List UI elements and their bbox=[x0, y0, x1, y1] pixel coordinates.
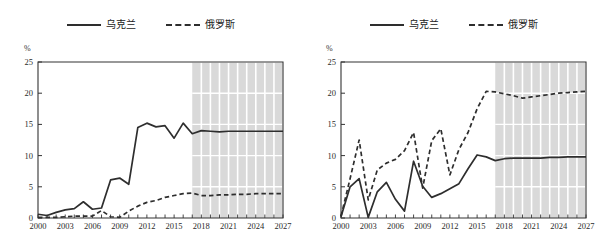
x-tick-label: 2015 bbox=[469, 221, 486, 231]
y-tick-label: 20 bbox=[328, 88, 337, 98]
x-tick-label: 2000 bbox=[333, 221, 350, 231]
y-tick-label: 10 bbox=[328, 151, 337, 161]
chart-panel-right: 乌克兰 俄罗斯 % 051015202520002003200620092012… bbox=[302, 0, 605, 239]
x-tick-label: 2027 bbox=[275, 221, 292, 231]
x-tick-label: 2018 bbox=[193, 221, 210, 231]
plot-area-left: 0510152025200020032006200920122015201820… bbox=[0, 0, 302, 239]
x-tick-label: 2021 bbox=[220, 221, 237, 231]
y-tick-label: 15 bbox=[25, 119, 34, 129]
dual-chart-figure: 乌克兰 俄罗斯 % 051015202520002003200620092012… bbox=[0, 0, 605, 239]
x-tick-label: 2012 bbox=[441, 221, 458, 231]
x-tick-label: 2021 bbox=[523, 221, 540, 231]
y-tick-label: 5 bbox=[332, 182, 336, 192]
x-tick-label: 2006 bbox=[84, 221, 101, 231]
x-tick-label: 2012 bbox=[138, 221, 155, 231]
x-tick-label: 2024 bbox=[247, 221, 265, 231]
y-tick-label: 20 bbox=[25, 88, 34, 98]
plot-area-right: 0510152025200020032006200920122015201820… bbox=[302, 0, 605, 239]
x-tick-label: 2006 bbox=[387, 221, 404, 231]
y-tick-label: 15 bbox=[328, 119, 337, 129]
x-tick-label: 2024 bbox=[550, 221, 568, 231]
y-tick-label: 25 bbox=[25, 57, 34, 67]
x-tick-label: 2009 bbox=[111, 221, 128, 231]
y-axis: 0510152025 bbox=[25, 57, 43, 223]
x-tick-label: 2003 bbox=[57, 221, 74, 231]
y-tick-label: 10 bbox=[25, 151, 34, 161]
y-axis: 0510152025 bbox=[328, 57, 346, 223]
x-tick-label: 2000 bbox=[30, 221, 47, 231]
x-tick-label: 2027 bbox=[578, 221, 595, 231]
x-tick-label: 2003 bbox=[360, 221, 377, 231]
x-tick-label: 2009 bbox=[414, 221, 431, 231]
chart-panel-left: 乌克兰 俄罗斯 % 051015202520002003200620092012… bbox=[0, 0, 302, 239]
x-tick-label: 2018 bbox=[496, 221, 513, 231]
y-tick-label: 5 bbox=[29, 182, 33, 192]
x-tick-label: 2015 bbox=[166, 221, 183, 231]
y-tick-label: 25 bbox=[328, 57, 337, 67]
